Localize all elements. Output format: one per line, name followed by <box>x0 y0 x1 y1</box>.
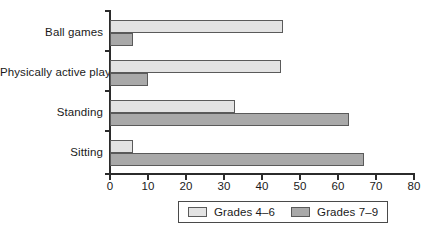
legend-label-grades-7-9: Grades 7–9 <box>317 206 378 218</box>
bar-ball-games-grades-4-6 <box>110 20 283 33</box>
x-axis-tick-label: 60 <box>331 180 344 192</box>
category-label-sitting: Sitting <box>0 146 103 158</box>
y-axis-tick <box>105 90 110 92</box>
x-axis-tick-label: 70 <box>369 180 382 192</box>
bar-ball-games-grades-7-9 <box>110 33 133 46</box>
x-axis-tick <box>147 175 149 180</box>
x-axis-tick-label: 30 <box>217 180 230 192</box>
x-axis-tick <box>109 175 111 180</box>
x-axis-tick <box>337 175 339 180</box>
x-axis-tick <box>223 175 225 180</box>
x-axis-tick <box>375 175 377 180</box>
x-axis-tick <box>299 175 301 180</box>
y-axis-tick <box>105 50 110 52</box>
legend-label-grades-4-6: Grades 4–6 <box>214 206 275 218</box>
bar-chart: Ball games Physically active play Standi… <box>0 0 429 235</box>
bar-physically-active-play-grades-4-6 <box>110 60 281 73</box>
chart-legend: Grades 4–6 Grades 7–9 <box>178 201 388 223</box>
y-axis-tick <box>105 130 110 132</box>
x-axis-tick-label: 40 <box>255 180 268 192</box>
category-label-standing: Standing <box>0 106 103 118</box>
category-label-ball-games: Ball games <box>0 26 103 38</box>
bar-sitting-grades-7-9 <box>110 153 364 166</box>
x-axis-tick-label: 80 <box>407 180 420 192</box>
legend-entry-grades-4-6: Grades 4–6 <box>188 206 275 218</box>
plot-area <box>110 12 414 172</box>
legend-entry-grades-7-9: Grades 7–9 <box>291 206 378 218</box>
x-axis-tick-label: 20 <box>179 180 192 192</box>
y-axis-tick <box>105 10 110 12</box>
x-axis-tick-label: 10 <box>141 180 154 192</box>
bar-sitting-grades-4-6 <box>110 140 133 153</box>
x-axis-tick <box>413 175 415 180</box>
x-axis-tick <box>261 175 263 180</box>
bar-standing-grades-7-9 <box>110 113 349 126</box>
legend-swatch-icon-grades-4-6 <box>188 207 207 217</box>
bar-standing-grades-4-6 <box>110 100 235 113</box>
x-axis-tick-label: 0 <box>107 180 114 192</box>
x-axis-tick-label: 50 <box>293 180 306 192</box>
legend-swatch-icon-grades-7-9 <box>291 207 310 217</box>
category-label-physically-active-play: Physically active play <box>0 66 103 78</box>
bar-physically-active-play-grades-7-9 <box>110 73 148 86</box>
x-axis-tick <box>185 175 187 180</box>
